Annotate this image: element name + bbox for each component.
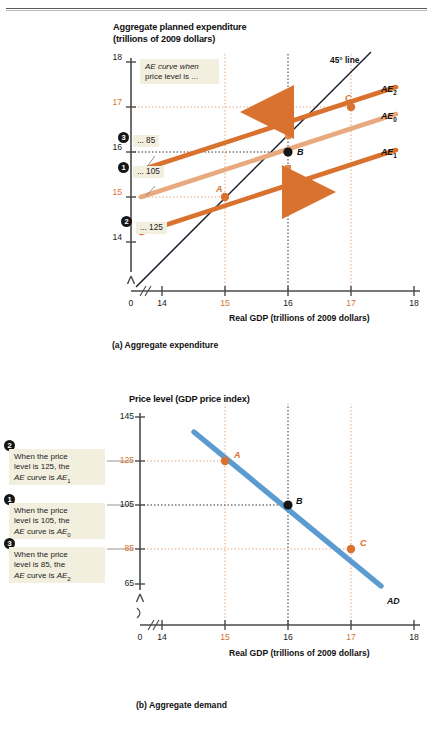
- panel-b-point-b: [283, 500, 292, 509]
- panel-b-point-label-b: B: [296, 496, 303, 506]
- panel-b-callout-105: When the price level is 105, the AE curv…: [9, 503, 105, 539]
- panel-a-caption: (a) Aggregate expenditure: [112, 340, 218, 350]
- panel-a-ytick-label-15: 15: [100, 187, 122, 197]
- panel-b-ytick-label-65: 65: [108, 578, 134, 588]
- panel-a-y-axis-title: Aggregate planned expenditure (trillions…: [113, 22, 343, 45]
- panel-a-curve-label-ae1: AE1: [381, 147, 397, 159]
- panel-b-ytick-label-105: 105: [108, 499, 134, 509]
- panel-a-point-b: [283, 147, 292, 156]
- figure-root: Aggregate planned expenditure (trillions…: [0, 0, 433, 737]
- panel-b-xtick-label-14: 14: [151, 632, 173, 642]
- header-divider: [6, 8, 427, 9]
- panel-b-point-label-c: C: [360, 538, 367, 548]
- panel-b-x-axis-title: Real GDP (trillions of 2009 dollars): [229, 648, 370, 658]
- panel-b-ytick-label-125: 125: [108, 455, 134, 465]
- panel-b-axis-break-squiggle: [137, 608, 140, 618]
- panel-b-callout-125: When the price level is 125, the AE curv…: [9, 449, 105, 485]
- panel-a-point-c: [347, 103, 355, 111]
- panel-a-ytick-label-14: 14: [100, 232, 122, 242]
- panel-a-xtick-label-17: 17: [340, 298, 362, 308]
- panel-a-point-label-c: C: [345, 93, 352, 103]
- panel-a-legend-note-line1: AE curve when: [145, 62, 199, 71]
- panel-b-y-axis-arrow: [137, 594, 144, 602]
- panel-b-xtick-label-18: 18: [403, 632, 425, 642]
- panel-a-xtick-label-0: 0: [120, 298, 142, 308]
- panel-b-caption: (b) Aggregate demand: [136, 700, 227, 710]
- panel-a-badge-2: 2: [121, 216, 132, 227]
- panel-b-curve-label-ad: AD: [387, 596, 400, 606]
- panel-a-legend-note-line2: price level is ...: [145, 72, 198, 81]
- panel-a-y-axis-title-line1: Aggregate planned expenditure: [113, 22, 247, 32]
- panel-a-point-label-a: A: [216, 184, 223, 194]
- panel-a-point-a: [221, 193, 229, 201]
- panel-b-point-a: [221, 457, 229, 465]
- panel-a-xtick-label-18: 18: [403, 298, 425, 308]
- panel-b-callout-85: When the price level is 85, the AE curve…: [9, 547, 105, 583]
- panel-a-curve-label-ae2: AE2: [381, 84, 397, 96]
- panel-a-marker-85: ... 85: [133, 135, 159, 147]
- panel-b-ytick-label-85: 85: [108, 543, 134, 553]
- panel-b-ytick-label-145: 145: [108, 411, 134, 421]
- panel-a-marker-125: ... 125: [136, 222, 167, 234]
- panel-a-y-axis-title-line2: (trillions of 2009 dollars): [113, 34, 215, 44]
- panel-a-curve-ae1: [141, 150, 396, 233]
- panel-b-point-label-a: A: [234, 450, 241, 460]
- panel-a-badge-1: 1: [118, 162, 129, 173]
- panel-a-45-line-label: 45° line: [330, 55, 359, 65]
- panel-a-ytick-label-18: 18: [100, 52, 122, 62]
- panel-a-xtick-label-16: 16: [277, 298, 299, 308]
- panel-a-legend-note: AE curve when price level is ...: [140, 59, 219, 84]
- panel-a-ytick-label-16: 16: [100, 142, 122, 152]
- panel-a-y-axis-arrow: [128, 276, 135, 284]
- panel-b-point-c: [347, 545, 355, 553]
- panel-a-marker-105: ... 105: [133, 166, 164, 178]
- panel-b-xtick-label-17: 17: [340, 632, 362, 642]
- panel-a-curve-label-ae0: AE0: [381, 111, 397, 123]
- header-divider-thin: [6, 10, 427, 11]
- panel-b-xtick-label-0: 0: [129, 632, 151, 642]
- panel-a-x-axis-title: Real GDP (trillions of 2009 dollars): [229, 313, 370, 323]
- panel-a-xtick-label-14: 14: [151, 298, 173, 308]
- panel-b-xtick-label-16: 16: [277, 632, 299, 642]
- panel-a-ytick-label-17: 17: [100, 97, 122, 107]
- panel-a-point-label-b: B: [297, 147, 304, 157]
- panel-a-xtick-label-15: 15: [214, 298, 236, 308]
- panel-b-xtick-label-15: 15: [214, 632, 236, 642]
